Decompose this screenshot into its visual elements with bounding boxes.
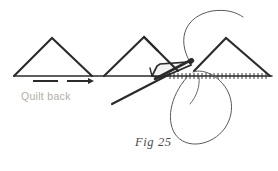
- figure-caption: Fig 25: [135, 135, 172, 150]
- figure-canvas: Quilt back Fig 25: [0, 0, 278, 171]
- quilt-back-label: Quilt back: [21, 90, 71, 102]
